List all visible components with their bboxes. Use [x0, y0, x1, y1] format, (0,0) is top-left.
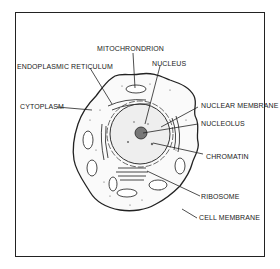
- label-chromatin: CHROMATIN: [206, 153, 249, 161]
- label-nucleus: NUCLEUS: [152, 60, 186, 68]
- label-nucleolus: NUCLEOLUS: [201, 120, 245, 128]
- label-ribosome: RIBOSOME: [201, 193, 240, 201]
- cell-illustration: [0, 0, 280, 269]
- label-cytoplasm: CYTOPLASM: [20, 103, 64, 111]
- label-endoplasmic-reticulum: ENDOPLASMIC RETICULUM: [17, 63, 113, 71]
- label-nuclear-membrane: NUCLEAR MEMBRANE: [201, 102, 278, 110]
- label-cell-membrane: CELL MEMBRANE: [199, 214, 260, 222]
- label-mitochondrion: MITOCHRONDRION: [97, 45, 164, 53]
